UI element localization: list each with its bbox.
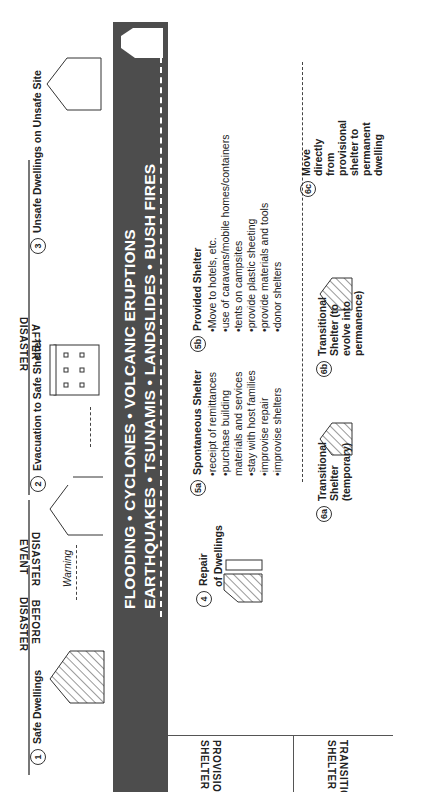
provided-shelter-block: 5bProvided Shelter Move to hotels, etc. … <box>190 72 284 352</box>
unsafe-dwelling-icon <box>45 52 103 112</box>
warning-label: Warning <box>62 550 73 587</box>
safe-dwelling-icon <box>48 647 106 707</box>
safe-shelter-building-icon <box>48 342 103 397</box>
disaster-event-band: FLOODING • CYCLONES • VOLCANIC ERUPTIONS… <box>113 22 168 792</box>
row-divider <box>293 736 294 792</box>
diagram-canvas: 1Safe Dwellings 2Evacuation to Safe Shel… <box>0 0 427 792</box>
evacuation-house-icon <box>48 467 108 537</box>
evacuation-arrow <box>90 407 91 447</box>
band-dashed-line <box>160 57 162 617</box>
transitional-6a-label: 6aTransitionalShelter(temporary) <box>316 442 352 522</box>
disaster-types-line-2: EARTHQUAKES • TSUNAMIS • LANDSLIDES • BU… <box>140 164 159 609</box>
disaster-event-arrow <box>28 500 30 560</box>
damaged-dwelling-icon <box>117 26 167 62</box>
stage-3-title: 3Unsafe Dwellings on Unsafe Site <box>30 70 46 254</box>
repair-dwelling-icon <box>220 554 265 604</box>
disaster-types-line-1: FLOODING • CYCLONES • VOLCANIC ERUPTIONS <box>120 229 139 609</box>
transitional-6b-label: 6bTransitionalShelter (toevolve intoperm… <box>316 291 364 377</box>
stage-1-title: 1Safe Dwellings <box>30 670 46 765</box>
warning-arrow <box>76 545 77 600</box>
transitional-6c-label: 6cMovedirectlyfromprovisionalshelter top… <box>300 120 384 197</box>
after-disaster-arrow <box>28 160 30 495</box>
transitional-shelter-label: TRANSITIONALSHELTER <box>325 740 349 788</box>
provisional-shelter-label: PROVISIONALSHELTER <box>198 740 222 788</box>
before-disaster-arrow <box>28 565 30 775</box>
